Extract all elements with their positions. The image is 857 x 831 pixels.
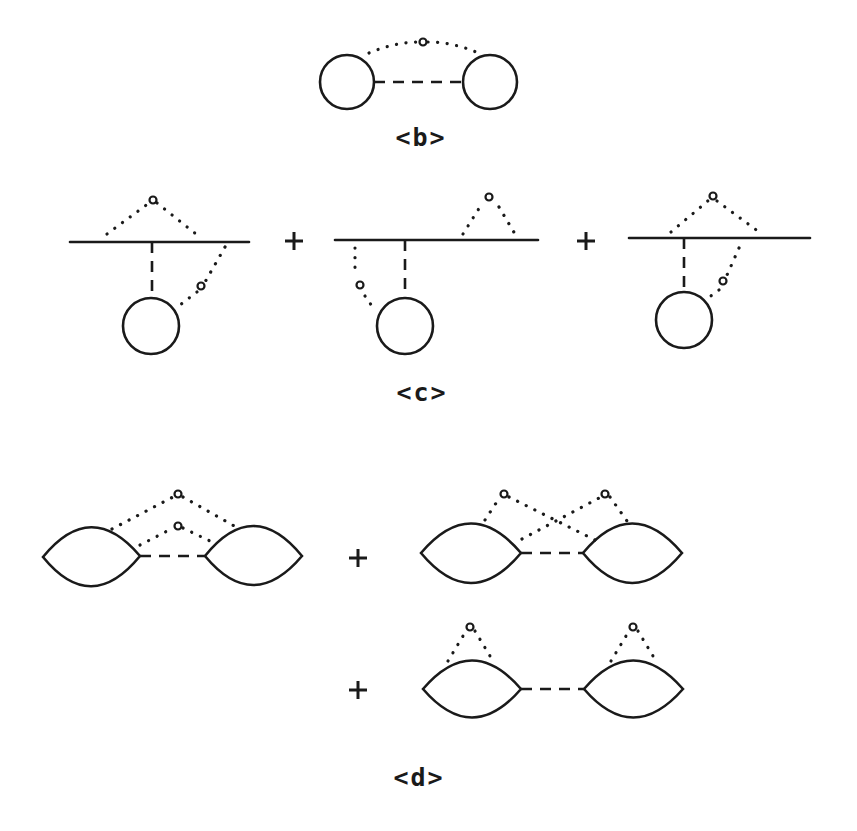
dotted-line <box>157 203 196 234</box>
diagram-figure: <b> <box>0 0 857 831</box>
dotted-line <box>428 42 476 52</box>
dotted-line <box>727 248 739 275</box>
dotted-line <box>671 200 709 232</box>
open-vertex <box>150 197 157 204</box>
plus-operator <box>285 232 303 250</box>
open-vertex <box>357 282 364 289</box>
dotted-line <box>463 202 483 234</box>
open-vertex <box>710 193 717 200</box>
dotted-line <box>708 290 719 298</box>
dotted-line <box>107 203 149 234</box>
loop-circle-left <box>320 55 374 109</box>
open-vertex <box>720 278 727 285</box>
dotted-line <box>365 296 374 309</box>
plus-operator <box>577 232 595 250</box>
open-vertex <box>420 39 427 46</box>
dotted-line <box>205 247 225 282</box>
open-vertex <box>175 491 182 498</box>
open-vertex <box>486 194 493 201</box>
dotted-line <box>499 207 515 234</box>
open-vertex <box>467 624 474 631</box>
panel-b: <b> <box>320 39 517 153</box>
panel-label-b: <b> <box>395 123 446 152</box>
dotted-line <box>611 631 629 661</box>
panel-d: <d> <box>43 491 683 793</box>
dotted-line <box>176 292 197 308</box>
open-vertex <box>602 491 609 498</box>
dotted-line <box>610 497 627 521</box>
dotted-line <box>485 497 500 520</box>
open-vertex <box>198 283 205 290</box>
open-vertex <box>501 491 508 498</box>
dotted-line <box>522 497 601 539</box>
diagram-term-c3 <box>629 193 810 349</box>
dotted-line <box>638 631 656 661</box>
loop-circle <box>377 298 433 354</box>
dotted-line <box>140 528 173 545</box>
diagram-term-d1 <box>43 491 302 587</box>
dotted-line <box>183 528 210 541</box>
diagram-term-d2 <box>421 491 682 584</box>
dotted-line <box>369 42 419 53</box>
lens-loop-left <box>423 661 521 718</box>
loop-circle <box>123 298 179 354</box>
dotted-line <box>509 497 595 540</box>
diagram-term-c1 <box>70 197 249 355</box>
diagram-term-c2 <box>335 194 538 355</box>
lens-loop-left <box>421 524 521 584</box>
dotted-line <box>475 631 493 661</box>
diagram-term-d3 <box>423 624 683 718</box>
panel-label-c: <c> <box>396 378 447 407</box>
dotted-line <box>448 631 466 661</box>
lens-loop-right <box>583 524 682 584</box>
lens-loop-right <box>584 661 683 718</box>
open-vertex <box>175 523 182 530</box>
dotted-line <box>112 497 173 529</box>
loop-circle <box>656 292 712 348</box>
lens-loop-right <box>205 526 302 585</box>
panel-c: <c> <box>70 193 810 408</box>
dotted-line <box>717 201 759 232</box>
loop-circle-right <box>463 55 517 109</box>
lens-loop-left <box>43 527 140 586</box>
panel-label-d: <d> <box>393 763 444 792</box>
dotted-line <box>183 497 236 527</box>
open-vertex <box>630 624 637 631</box>
plus-operator <box>349 549 367 567</box>
plus-operator <box>349 681 367 699</box>
